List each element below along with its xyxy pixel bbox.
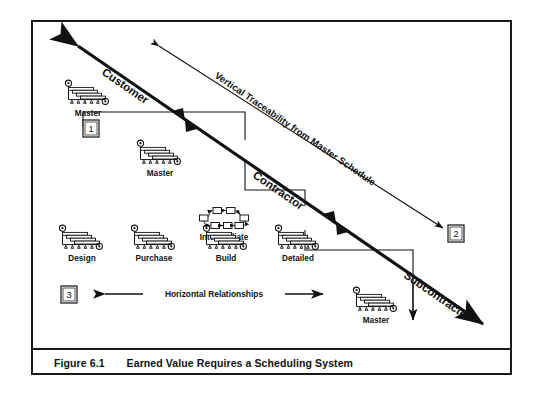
gantt-chart-icon <box>65 80 108 104</box>
gantt-chart-icon <box>131 225 174 249</box>
node-build[interactable]: Build <box>203 225 246 263</box>
node-label-detailed: Detailed <box>282 254 314 263</box>
node-purchase[interactable]: Purchase <box>131 225 174 263</box>
screenshot-canvas: Customer Contractor Subcontractor Vertic… <box>0 0 538 394</box>
callout-1[interactable]: 1 <box>83 120 99 137</box>
node-contractor-master[interactable]: Master <box>137 140 180 178</box>
callout-3-text: 3 <box>66 290 71 300</box>
node-label-build: Build <box>216 254 236 263</box>
gantt-chart-icon <box>275 225 318 249</box>
connector-customer-to-contractor <box>83 112 245 140</box>
caption-title: Earned Value Requires a Scheduling Syste… <box>127 357 353 369</box>
figure-caption: Figure 6.1 Earned Value Requires a Sched… <box>33 350 510 375</box>
node-design[interactable]: Design <box>59 225 102 263</box>
caption-number: Figure 6.1 <box>54 357 105 369</box>
node-label-contractor-master: Master <box>147 169 174 178</box>
gantt-chart-icon <box>59 225 102 249</box>
node-label-purchase: Purchase <box>136 254 173 263</box>
label-vertical-traceability: Vertical Traceability from Master Schedu… <box>213 70 378 188</box>
node-detailed[interactable]: Detailed <box>275 225 318 263</box>
callout-2-text: 2 <box>453 229 458 239</box>
diagram-artwork: Customer Contractor Subcontractor Vertic… <box>33 22 514 348</box>
callout-3[interactable]: 3 <box>61 286 77 303</box>
figure-frame: Customer Contractor Subcontractor Vertic… <box>31 20 512 375</box>
callout-2[interactable]: 2 <box>448 225 464 242</box>
gantt-chart-icon <box>137 140 180 164</box>
callout-1-text: 1 <box>88 124 93 134</box>
tree-connectors <box>83 112 413 282</box>
label-horizontal-relationships: Horizontal Relationships <box>165 289 264 299</box>
node-label-subcontractor-master: Master <box>363 316 390 325</box>
node-subcontractor-master[interactable]: Master <box>353 287 396 325</box>
gantt-chart-icon <box>353 287 396 311</box>
label-customer: Customer <box>100 66 151 107</box>
node-label-design: Design <box>68 254 95 263</box>
diagonal-arrowhead-upper <box>172 108 185 120</box>
node-label-customer-master: Master <box>75 109 102 118</box>
